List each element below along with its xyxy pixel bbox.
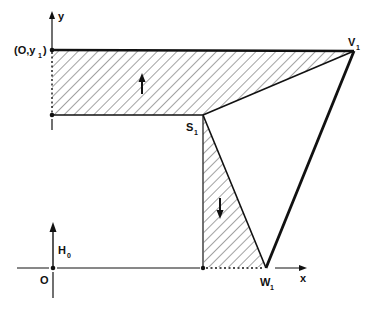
h0-arrow-icon [50,222,57,232]
v1-label-sub: 1 [356,44,360,51]
s1-label: S [186,121,193,133]
s1-label-sub: 1 [194,129,198,136]
top-boundary-line [52,50,354,51]
y1-point [50,48,55,53]
y1-label-main: (O,y [14,44,36,56]
v1-label: V [348,36,356,48]
x-axis-label: x [300,272,307,284]
y1-label-sub: 1 [38,52,42,59]
y1-label: (O,y [14,44,36,56]
h0-label: H [58,244,66,256]
w1-label-sub: 1 [270,284,274,291]
y-axis-arrow-icon [49,11,55,19]
origin-point [51,266,56,271]
origin-label: O [40,274,49,286]
x-axis-arrow-icon [299,265,307,271]
lower-x-point [201,266,205,270]
h0-label-sub: 0 [67,252,71,259]
upper-hatched-region [52,51,352,115]
y-axis-label: y [58,10,65,22]
lower-y-point [50,113,55,118]
y1-label-close: ) [43,44,47,56]
diagram-figure: y H 0 x O (O,y 1 ) V 1 S 1 W 1 [0,0,369,311]
